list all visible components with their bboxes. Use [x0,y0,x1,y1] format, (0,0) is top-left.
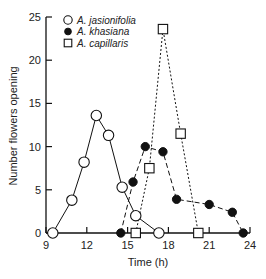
flowering-chart: 912151821240510152025 A. jasionifoliaA. … [0,0,266,279]
x-tick-label: 9 [43,239,49,251]
y-tick-label: 5 [35,184,41,196]
filled-circle-marker [172,195,180,203]
open-square-marker [131,228,140,237]
series-a-capillaris [136,29,199,233]
legend-item: A. jasionifolia [64,15,137,26]
open-circle-marker [131,211,141,221]
open-square-marker [158,24,167,33]
open-circle-marker [117,182,127,192]
open-square-marker [176,129,185,138]
open-circle-marker [91,110,101,120]
filled-circle-marker [239,229,247,237]
filled-circle-marker [117,229,125,237]
open-square-marker [194,228,203,237]
y-axis-title: Number flowers opening [7,66,19,185]
legend-label: A. capillaris [76,38,128,49]
open-circle-marker [154,228,164,238]
open-circle-marker [103,130,113,140]
open-circle-marker [79,157,89,167]
legend-label: A. jasionifolia [76,15,136,26]
y-tick-label: 0 [35,227,41,239]
y-tick-label: 15 [29,97,41,109]
x-tick-label: 24 [244,239,256,251]
series-group [48,24,248,238]
x-axis-title: Time (h) [128,256,169,268]
filled-circle-marker [129,178,137,186]
filled-circle-marker [141,142,149,150]
legend-item: A. khasiana [65,26,130,37]
y-tick-label: 10 [29,141,41,153]
open-circle-marker [48,228,58,238]
filled-circle-marker [159,148,167,156]
x-tick-label: 18 [162,239,174,251]
series-line [136,29,199,233]
x-tick-label: 15 [121,239,133,251]
open-square-marker [64,39,72,47]
legend: A. jasionifoliaA. khasianaA. capillaris [64,15,137,49]
y-tick-label: 20 [29,54,41,66]
y-tick-label: 25 [29,11,41,23]
filled-circle-marker [228,208,236,216]
x-tick-label: 12 [81,239,93,251]
legend-label: A. khasiana [76,26,130,37]
filled-circle-marker [65,28,72,35]
x-tick-label: 21 [203,239,215,251]
open-circle-marker [64,16,72,24]
filled-circle-marker [205,200,213,208]
open-circle-marker [67,195,77,205]
legend-item: A. capillaris [64,38,128,49]
open-square-marker [145,164,154,173]
